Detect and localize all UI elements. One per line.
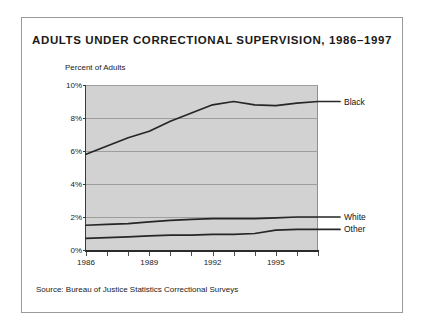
chart-figure: ADULTS UNDER CORRECTIONAL SUPERVISION, 1…	[21, 17, 403, 313]
x-tick-mark	[297, 252, 298, 256]
chart-title: ADULTS UNDER CORRECTIONAL SUPERVISION, 1…	[22, 34, 402, 46]
x-axis-line	[85, 250, 319, 252]
y-tick-mark	[83, 250, 86, 251]
series-lines	[86, 85, 318, 250]
y-tick-label: 10%	[66, 81, 82, 90]
y-tick-label: 2%	[70, 213, 82, 222]
series-label-other: Other	[344, 224, 365, 234]
x-tick-mark	[149, 252, 150, 256]
x-tick-mark	[107, 252, 108, 256]
x-tick-mark	[234, 252, 235, 256]
y-tick-label: 8%	[70, 114, 82, 123]
y-tick-label: 6%	[70, 147, 82, 156]
series-label-white: White	[344, 212, 366, 222]
y-tick-label: 0%	[70, 246, 82, 255]
x-tick-label: 1989	[140, 258, 158, 267]
x-tick-mark	[276, 252, 277, 256]
x-tick-label: 1986	[77, 258, 95, 267]
x-tick-mark	[255, 252, 256, 256]
x-tick-mark	[318, 252, 319, 256]
series-label-black: Black	[344, 97, 365, 107]
source-note: Source: Bureau of Justice Statistics Cor…	[36, 285, 238, 294]
x-tick-mark	[128, 252, 129, 256]
y-tick-label: 4%	[70, 180, 82, 189]
y-axis-label: Percent of Adults	[65, 63, 125, 72]
series-line-other	[86, 229, 340, 238]
plot-area-wrapper: 0%2%4%6%8%10% 1986198919921995 BlackWhit…	[86, 85, 318, 250]
x-tick-label: 1992	[204, 258, 222, 267]
x-tick-label: 1995	[267, 258, 285, 267]
x-tick-mark	[86, 252, 87, 256]
series-line-white	[86, 217, 340, 225]
series-line-black	[86, 102, 340, 155]
x-tick-mark	[191, 252, 192, 256]
x-tick-mark	[170, 252, 171, 256]
x-tick-mark	[213, 252, 214, 256]
